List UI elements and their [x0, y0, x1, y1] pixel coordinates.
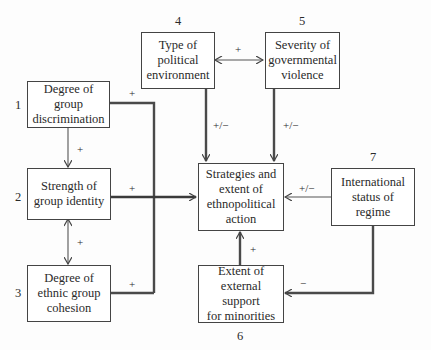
node-international-status: International status of regime: [331, 168, 415, 226]
node-number-5: 5: [294, 14, 310, 28]
edge-sign-5-center: +/−: [283, 119, 298, 131]
node-label: Strategies and extent of ethnopolitical …: [206, 167, 276, 227]
node-label: Degree of ethnic group cohesion: [38, 271, 101, 316]
node-external-support: Extent of external support for minoritie…: [198, 265, 284, 323]
node-group-discrimination: Degree of group discrimination: [27, 81, 110, 128]
edge-7-6: [285, 225, 373, 293]
edge-sign-3-center: +: [129, 278, 135, 290]
node-number-3: 3: [10, 286, 26, 300]
edge-sign-1-2: +: [77, 143, 83, 155]
edge-sign-4-center: +/−: [213, 119, 228, 131]
node-political-environment: Type of political environment: [141, 32, 215, 89]
edge-sign-2-center: +: [129, 182, 135, 194]
node-label: Degree of group discrimination: [31, 82, 106, 127]
node-number-4: 4: [170, 14, 186, 28]
edge-sign-7-center: +/−: [299, 182, 314, 194]
node-number-6: 6: [232, 329, 248, 343]
diagram-canvas: 1 2 3 4 5 6 7 Degree of group discrimina…: [0, 0, 431, 350]
edge-sign-4-5: +: [235, 43, 241, 55]
node-label: Severity of governmental violence: [268, 38, 337, 83]
node-number-2: 2: [10, 190, 26, 204]
node-label: Type of political environment: [146, 38, 209, 83]
edge-sign-7-6: −: [300, 277, 306, 289]
node-label: Extent of external support for minoritie…: [202, 264, 280, 324]
edge-sign-2-3: +: [77, 236, 83, 248]
node-label: International status of regime: [341, 175, 405, 220]
node-group-identity: Strength of group identity: [27, 168, 111, 220]
node-ethnic-cohesion: Degree of ethnic group cohesion: [27, 265, 111, 322]
node-governmental-violence: Severity of governmental violence: [265, 32, 340, 89]
node-number-1: 1: [10, 98, 26, 112]
node-label: Strength of group identity: [34, 179, 104, 209]
edge-sign-6-center: +: [250, 243, 256, 255]
node-number-7: 7: [365, 150, 381, 164]
edge-sign-1-center: +: [129, 87, 135, 99]
node-ethnopolitical-action: Strategies and extent of ethnopolitical …: [198, 163, 284, 231]
